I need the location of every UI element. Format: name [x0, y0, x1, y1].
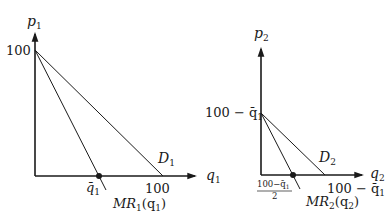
- d1-label: D1: [157, 150, 175, 168]
- monopoly-diagram: p1 100 100 q̄1 D1 MR1(q1) q1 p2 100 − q̄…: [0, 0, 391, 222]
- right-panel: p2 100 − q̄1 100 − q̄1 100−q̄1 2 D2 MR2(…: [205, 25, 385, 211]
- p1-axis-label: p1: [27, 13, 42, 31]
- left-panel: p1 100 100 q̄1 D1 MR1(q1) q1: [6, 13, 221, 213]
- marginal-revenue-curve-mr1: [35, 50, 106, 190]
- qbar1-label: q̄1: [86, 180, 100, 197]
- mr2-zero-point: [290, 172, 296, 178]
- q1-intercept-label: 100: [145, 181, 170, 196]
- mr2-label: MR2(q2): [305, 194, 359, 211]
- svg-text:100−q̄1: 100−q̄1: [257, 179, 290, 190]
- q2-axis-label: q2: [370, 165, 385, 183]
- mr1-label: MR1(q1): [112, 196, 166, 213]
- demand-curve-d2: [261, 113, 325, 175]
- p2-intercept-label: 100 − q̄1: [205, 105, 263, 122]
- mr2-zero-fraction: 100−q̄1 2: [257, 179, 292, 201]
- svg-text:2: 2: [272, 191, 277, 201]
- p2-axis-label: p2: [254, 25, 269, 43]
- q1-axis-label: q1: [206, 167, 221, 185]
- qbar1-point: [96, 173, 102, 179]
- d2-label: D2: [318, 149, 336, 167]
- demand-curve-d1: [35, 50, 163, 176]
- p1-intercept-label: 100: [6, 43, 31, 58]
